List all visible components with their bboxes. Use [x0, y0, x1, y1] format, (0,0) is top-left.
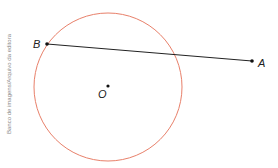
point-b [45, 42, 49, 46]
label-a: A [257, 57, 265, 69]
point-o [106, 84, 109, 87]
label-o: O [98, 88, 107, 100]
segment-ba [47, 44, 252, 61]
point-a [250, 59, 254, 63]
label-b: B [33, 38, 40, 50]
geometry-figure: B A O [0, 0, 278, 168]
